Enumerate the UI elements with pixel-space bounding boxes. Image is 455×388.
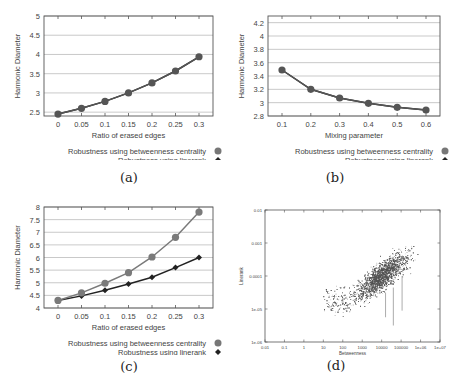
y-tick-label: 8 [36,203,40,212]
x-tick-label: 0.1 [277,120,287,129]
x-tick-label: 0.2 [147,312,157,321]
caption-a: (a) [109,170,149,185]
circle-marker [195,53,202,60]
chart-d-plot: 0.010.11101001000100001000001e+061e+071e… [228,195,455,358]
y-axis-label: Harmonic Diameter [13,33,22,98]
y-tick-label: 1e-05 [251,307,262,312]
chart-b: 2.833.23.43.63.844.20.10.20.30.40.50.6Mi… [224,0,455,195]
chart-d: 0.010.11101001000100001000001e+061e+071e… [228,195,455,388]
caption-d: (d) [316,358,356,373]
y-tick-label: 3 [260,99,264,108]
y-tick-label: 3.6 [254,59,264,68]
x-tick-label: 0.3 [194,312,204,321]
y-tick-label: 3 [36,89,40,98]
x-tick-label: 1e+06 [415,345,427,350]
y-tick-label: 3.2 [254,85,264,94]
x-tick-label: 100000 [394,345,409,350]
x-tick-label: 10000 [376,345,388,350]
y-tick-label: 4 [36,50,40,59]
diamond-marker [102,287,108,293]
circle-marker [54,297,61,304]
y-tick-label: 2.5 [30,108,40,117]
y-tick-label: 7.5 [30,216,40,225]
legend-label-betweenness: Robustness using betweenness centrality [295,147,433,156]
x-tick-label: 0.15 [121,312,136,321]
y-axis-label: Harmonic Diameter [237,33,246,98]
circle-marker [365,100,372,107]
y-tick-label: 1e-06 [251,340,262,345]
legend-label-betweenness: Robustness using betweenness centrality [68,339,206,348]
x-tick-label: 0 [56,312,60,321]
x-tick-label: 10 [321,345,326,350]
y-tick-label: 4.5 [30,291,40,300]
y-tick-label: 4.2 [254,19,264,28]
x-tick-label: 0.4 [363,120,373,129]
x-tick-label: 1000 [358,345,368,350]
x-tick-label: 0.3 [334,120,344,129]
legend-diamond-icon [215,157,221,160]
legend-label-linerank: Robustness using linerank [118,348,206,355]
circle-marker [195,208,202,215]
series-line [58,57,199,114]
y-tick-label: 3.5 [30,70,40,79]
y-tick-label: 4 [260,32,264,41]
circle-marker [125,89,132,96]
y-tick-label: 2.8 [254,112,264,121]
legend-label-betweenness: Robustness using betweenness centrality [68,147,206,156]
circle-marker [148,79,155,86]
circle-marker [278,66,285,73]
diamond-marker [149,274,155,280]
x-tick-label: 0 [56,120,60,129]
circle-marker [54,110,61,117]
circle-marker [172,234,179,241]
y-tick-label: 5 [36,12,40,21]
circle-marker [172,67,179,74]
y-axis-label: Harmonic Diameter [13,225,22,290]
x-axis-label: Mixing parameter [325,131,383,140]
circle-marker [78,105,85,112]
plot-frame [265,210,440,342]
diamond-marker [196,255,202,261]
caption-c: (c) [109,359,149,374]
x-tick-label: 0.3 [194,120,204,129]
y-tick-label: 0.01 [254,208,263,213]
x-tick-label: 1e+07 [434,345,446,350]
circle-marker [125,269,132,276]
y-tick-label: 4.5 [30,31,40,40]
chart-a: 2.533.544.5500.050.10.150.20.250.3Ratio … [0,0,228,195]
y-tick-label: 3.4 [254,72,264,81]
circle-marker [422,106,429,113]
y-tick-label: 6 [36,254,40,263]
x-axis-label: Ratio of erased edges [92,131,166,140]
x-tick-label: 0.1 [100,312,110,321]
plot-frame [44,16,213,116]
diamond-marker [126,281,132,287]
x-tick-label: 0.01 [261,345,270,350]
x-tick-label: 1 [303,345,306,350]
x-tick-label: 0.6 [421,120,431,129]
x-tick-label: 0.25 [168,312,183,321]
x-tick-label: 0.1 [282,345,288,350]
series-line [58,212,199,300]
chart-c: 44.555.566.577.5800.050.10.150.20.250.3R… [0,195,228,388]
caption-b: (b) [315,170,355,185]
y-tick-label: 0.001 [252,241,263,246]
x-axis-label: Betweenness [339,351,367,356]
circle-marker [394,104,401,111]
x-tick-label: 0.15 [121,120,136,129]
y-tick-label: 4 [36,304,40,313]
legend-circle-icon [215,340,222,347]
x-axis-label: Ratio of erased edges [92,323,166,332]
circle-marker [336,94,343,101]
x-tick-label: 0.2 [147,120,157,129]
y-tick-label: 0.0001 [249,274,262,279]
circle-marker [101,98,108,105]
x-tick-label: 100 [339,345,347,350]
circle-marker [148,253,155,260]
legend-diamond-icon [215,349,221,355]
y-tick-label: 7 [36,228,40,237]
circle-marker [307,86,314,93]
x-tick-label: 0.2 [306,120,316,129]
circle-marker [78,289,85,296]
y-tick-label: 5.5 [30,266,40,275]
